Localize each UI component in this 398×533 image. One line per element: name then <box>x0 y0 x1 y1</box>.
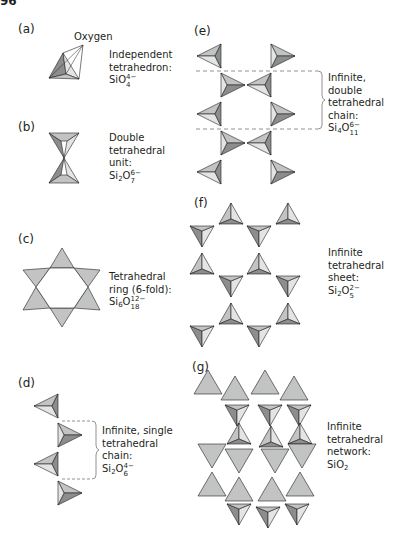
tetrahedron-icon <box>49 45 83 79</box>
tetrahedral-sheet-icon <box>190 203 300 347</box>
single-chain-icon <box>34 394 99 505</box>
double-chain-icon <box>196 44 325 184</box>
tetrahedral-ring-icon <box>23 248 100 327</box>
silicate-structures-figure <box>0 0 398 533</box>
double-tetrahedron-icon <box>49 133 79 183</box>
tetrahedral-network-icon <box>194 370 316 528</box>
